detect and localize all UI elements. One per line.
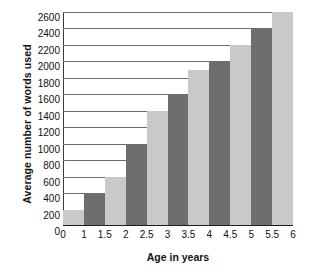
bar bbox=[147, 111, 168, 226]
x-axis-title: Age in years bbox=[63, 251, 293, 263]
x-tick-label: 1.5 bbox=[98, 229, 112, 240]
bar-series bbox=[63, 12, 293, 226]
bar bbox=[209, 61, 230, 226]
y-tick-label: 600 bbox=[43, 177, 60, 187]
plot-area: 0200400600800100012001400160018002000220… bbox=[63, 12, 293, 226]
x-axis-line bbox=[63, 225, 293, 226]
bar bbox=[126, 144, 147, 226]
y-tick-label: 2400 bbox=[38, 29, 60, 39]
x-tick-label: 3 bbox=[165, 229, 171, 240]
y-tick-label: 1800 bbox=[38, 79, 60, 89]
y-tick-label: 0 bbox=[54, 227, 60, 237]
x-tick-label: 4.5 bbox=[223, 229, 237, 240]
x-tick-label: 4 bbox=[207, 229, 213, 240]
y-tick-label: 1000 bbox=[38, 145, 60, 155]
y-tick-label: 400 bbox=[43, 194, 60, 204]
bar bbox=[168, 94, 189, 226]
bar bbox=[105, 177, 126, 226]
bar-chart: Average number of words used 02004006008… bbox=[0, 0, 310, 280]
x-tick-label: 6 bbox=[290, 229, 296, 240]
y-tick-label: 800 bbox=[43, 161, 60, 171]
bar bbox=[251, 28, 272, 226]
x-tick-label: 0 bbox=[60, 229, 66, 240]
bar bbox=[188, 70, 209, 226]
x-axis-tick-labels: 011.522.533.544.555.56 bbox=[63, 229, 293, 245]
bar bbox=[84, 193, 105, 226]
y-tick-label: 2600 bbox=[38, 13, 60, 23]
y-axis-title: Average number of words used bbox=[21, 39, 33, 209]
x-tick-label: 3.5 bbox=[182, 229, 196, 240]
y-tick-label: 2200 bbox=[38, 46, 60, 56]
x-tick-label: 2 bbox=[123, 229, 129, 240]
y-tick-label: 1200 bbox=[38, 128, 60, 138]
y-tick-label: 1400 bbox=[38, 112, 60, 122]
x-tick-label: 2.5 bbox=[140, 229, 154, 240]
y-tick-label: 1600 bbox=[38, 95, 60, 105]
y-tick-label: 200 bbox=[43, 210, 60, 220]
x-tick-label: 5.5 bbox=[265, 229, 279, 240]
x-tick-label: 1 bbox=[81, 229, 87, 240]
x-tick-label: 5 bbox=[248, 229, 254, 240]
bar bbox=[230, 45, 251, 226]
bar bbox=[63, 210, 84, 226]
bar bbox=[272, 12, 293, 226]
y-tick-label: 2000 bbox=[38, 62, 60, 72]
